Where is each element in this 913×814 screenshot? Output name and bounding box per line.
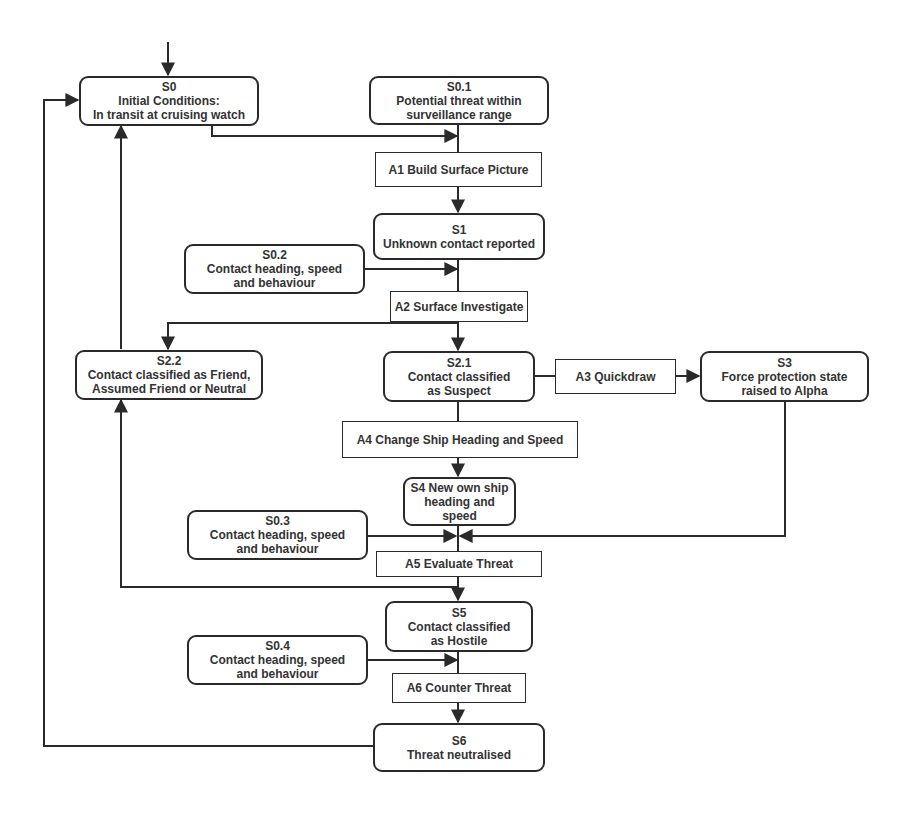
action-a2: A2 Surface Investigate <box>390 291 528 322</box>
action-a5: A5 Evaluate Threat <box>376 551 542 577</box>
state-text: Unknown contact reported <box>383 237 535 251</box>
action-label: A3 Quickdraw <box>575 370 655 384</box>
state-text: heading and <box>424 495 495 509</box>
state-s2-1: S2.1 Contact classified as Suspect <box>383 351 535 402</box>
state-id: S2.1 <box>447 356 472 370</box>
state-text: Assumed Friend or Neutral <box>92 382 246 396</box>
state-text: and behaviour <box>236 667 318 681</box>
state-id: S2.2 <box>157 354 182 368</box>
state-text: surveillance range <box>406 108 511 122</box>
state-text: and behaviour <box>236 542 318 556</box>
state-text: Contact classified <box>408 370 511 384</box>
state-text: raised to Alpha <box>741 384 827 398</box>
action-label: A1 Build Surface Picture <box>388 163 528 177</box>
action-label: A2 Surface Investigate <box>395 300 524 314</box>
state-id: S0.4 <box>265 639 290 653</box>
state-text: In transit at cruising watch <box>93 108 245 122</box>
state-s2-2: S2.2 Contact classified as Friend, Assum… <box>75 350 263 400</box>
state-id: S0 <box>162 80 177 94</box>
state-id: S5 <box>452 606 467 620</box>
action-label: A5 Evaluate Threat <box>405 557 513 571</box>
state-id: S4 <box>410 481 425 495</box>
state-s6: S6 Threat neutralised <box>373 723 545 772</box>
state-id: S3 <box>777 356 792 370</box>
state-s3: S3 Force protection state raised to Alph… <box>700 351 869 402</box>
action-label: A4 Change Ship Heading and Speed <box>357 433 564 447</box>
state-text: Force protection state <box>721 370 847 384</box>
state-text: Contact heading, speed <box>210 528 345 542</box>
action-a1: A1 Build Surface Picture <box>375 152 542 187</box>
state-text-line: New own ship <box>429 481 509 495</box>
state-text: speed <box>442 509 477 523</box>
state-s0-4: S0.4 Contact heading, speed and behaviou… <box>187 635 368 685</box>
state-text: Potential threat within <box>396 94 521 108</box>
state-id: S0.1 <box>447 80 472 94</box>
state-text: Initial Conditions: <box>118 94 219 108</box>
state-text: Contact classified as Friend, <box>88 368 251 382</box>
state-s0-1: S0.1 Potential threat within surveillanc… <box>369 76 549 125</box>
state-id: S0.2 <box>262 248 287 262</box>
action-label: A6 Counter Threat <box>407 681 512 695</box>
state-text: and behaviour <box>233 276 315 290</box>
state-text: as Suspect <box>427 384 490 398</box>
state-id: S0.3 <box>265 514 290 528</box>
state-text: Contact heading, speed <box>207 262 342 276</box>
state-id: S1 <box>452 223 467 237</box>
action-a6: A6 Counter Threat <box>392 673 526 703</box>
state-text: Contact classified <box>408 620 511 634</box>
state-s0-3: S0.3 Contact heading, speed and behaviou… <box>187 510 368 560</box>
state-id: S6 <box>452 734 467 748</box>
state-text: Contact heading, speed <box>210 653 345 667</box>
action-a3: A3 Quickdraw <box>555 359 676 394</box>
state-text: as Hostile <box>431 634 488 648</box>
state-s0: S0 Initial Conditions: In transit at cru… <box>79 76 259 126</box>
state-text: Threat neutralised <box>407 748 511 762</box>
state-s4: S4 New own ship heading and speed <box>403 477 516 526</box>
state-s0-2: S0.2 Contact heading, speed and behaviou… <box>184 244 365 294</box>
state-s5: S5 Contact classified as Hostile <box>385 601 533 652</box>
state-s1: S1 Unknown contact reported <box>373 213 545 260</box>
state-text: S4 New own ship <box>410 481 508 495</box>
action-a4: A4 Change Ship Heading and Speed <box>342 421 578 458</box>
